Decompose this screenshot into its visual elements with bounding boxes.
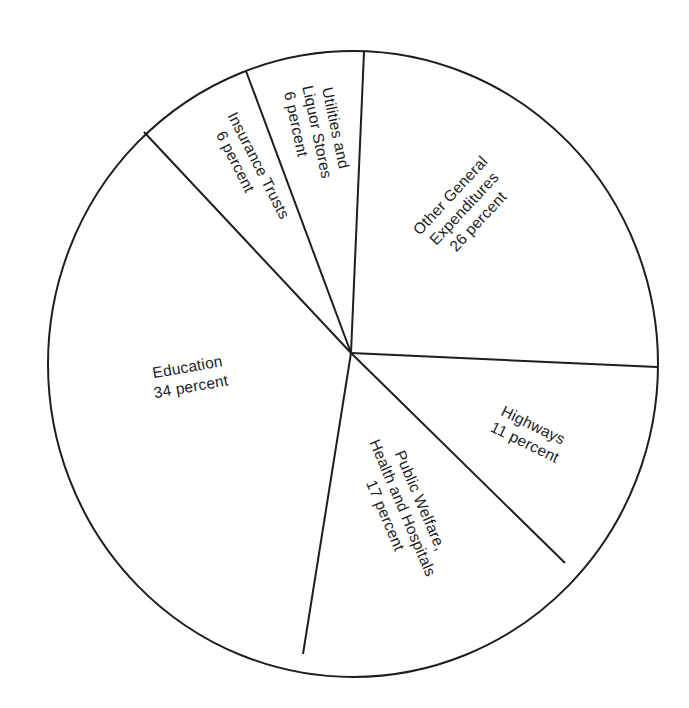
pie-chart: Other General Expenditures 26 percent Hi… (0, 0, 689, 708)
pie-outline (48, 51, 658, 677)
